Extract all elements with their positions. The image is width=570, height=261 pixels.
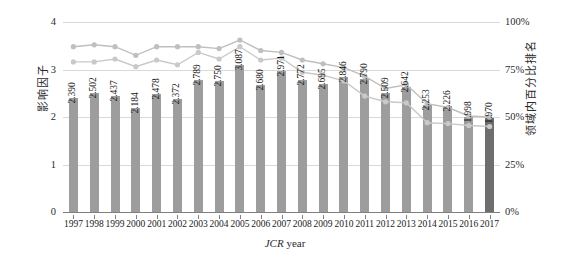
chart-figure: 影响因子 领域内百分比排名 JCR year 2.3902.5022.4372.… — [0, 0, 570, 261]
left-axis-tick-label: 1 — [30, 160, 56, 171]
bar-value-label: 2.971 — [276, 55, 286, 76]
line-marker — [445, 121, 450, 126]
bar-value-label: 3.087 — [234, 49, 244, 70]
left-axis-tick-label: 2 — [30, 112, 56, 123]
right-axis-tick-label: 100% — [505, 17, 545, 28]
bar-value-label: 2.790 — [359, 64, 369, 85]
line-marker — [154, 57, 159, 62]
line-marker — [466, 123, 471, 128]
x-axis-ticks: 1997199819992000200120022003200420052006… — [63, 215, 500, 229]
line-marker — [112, 44, 117, 49]
line-marker — [487, 124, 492, 129]
line-marker — [133, 64, 138, 69]
line-marker — [92, 59, 97, 64]
bar-value-label: 2.695 — [318, 68, 328, 89]
line-marker — [362, 94, 367, 99]
left-axis-tick-label: 0 — [30, 207, 56, 218]
x-axis-line — [63, 212, 500, 213]
bar-value-label: 2.372 — [172, 83, 182, 104]
bar-value-label: 2.750 — [214, 66, 224, 87]
line-marker — [154, 44, 159, 49]
line-marker — [404, 100, 409, 105]
bar-value-label: 2.680 — [255, 69, 265, 90]
line-marker — [237, 37, 242, 42]
bar-value-label: 2.253 — [422, 89, 432, 110]
bar-value-label: 2.846 — [338, 61, 348, 82]
bar-value-label: 2.789 — [193, 64, 203, 85]
bar-value-label: 2.502 — [89, 77, 99, 98]
line-marker — [196, 50, 201, 55]
bar-value-label: 2.390 — [68, 83, 78, 104]
line-marker — [133, 53, 138, 58]
line-marker — [217, 56, 222, 61]
line-marker — [112, 56, 117, 61]
right-axis-tick-label: 75% — [505, 65, 545, 76]
line-marker — [258, 48, 263, 53]
line-marker — [217, 46, 222, 51]
line-marker — [175, 62, 180, 67]
bar-value-label: 1.998 — [463, 101, 473, 122]
left-axis-tick-label: 4 — [30, 17, 56, 28]
x-axis-tick-label: 2017 — [475, 220, 505, 230]
line-marker — [258, 57, 263, 62]
right-axis-tick-label: 0% — [505, 207, 545, 218]
line-marker — [300, 57, 305, 62]
right-axis-title: 领域内百分比排名 — [522, 28, 538, 148]
bar-value-label: 2.226 — [442, 90, 452, 111]
left-axis-tick-label: 3 — [30, 65, 56, 76]
line-marker — [71, 44, 76, 49]
x-axis-title-suffix: year — [284, 237, 306, 249]
bar-value-label: 1.970 — [484, 103, 494, 124]
right-axis-tick-label: 50% — [505, 112, 545, 123]
x-axis-title-prefix: JCR — [265, 237, 284, 249]
right-axis-tick-label: 25% — [505, 160, 545, 171]
line-marker — [71, 59, 76, 64]
bar-value-label: 2.642 — [401, 71, 411, 92]
bar-value-label: 2.478 — [151, 78, 161, 99]
line-marker — [383, 99, 388, 104]
line-marker — [196, 44, 201, 49]
bar-value-label: 2.437 — [110, 80, 120, 101]
x-axis-title: JCR year — [0, 237, 570, 249]
plot-area: 2.3902.5022.4372.1842.4782.3722.7892.750… — [63, 22, 500, 212]
bar-value-label: 2.509 — [380, 77, 390, 98]
line-marker — [321, 61, 326, 66]
left-axis-title: 影响因子 — [34, 28, 50, 148]
bar-value-label: 2.184 — [130, 92, 140, 113]
line-marker — [92, 42, 97, 47]
line-marker — [175, 44, 180, 49]
line-marker — [425, 120, 430, 125]
bar-value-label: 2.772 — [297, 64, 307, 85]
line-series — [63, 22, 500, 212]
